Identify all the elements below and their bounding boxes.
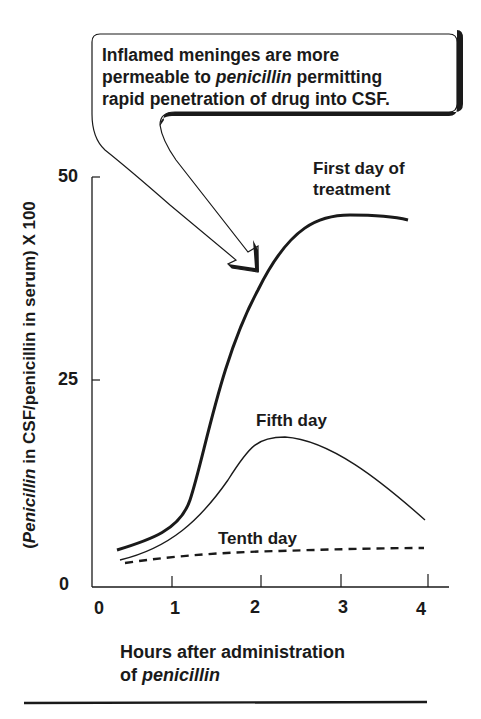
label-first-day-line-1: First day of [313, 158, 405, 179]
callout-line-2: permeable to penicillin permitting [102, 66, 442, 88]
callout-line-2-italic: penicillin [216, 67, 292, 87]
x-tick-label-4: 4 [416, 599, 426, 620]
callout-annotation: Inflamed meninges are more permeable to … [102, 44, 442, 110]
y-tick-label-25: 25 [58, 369, 78, 390]
callout-line-1: Inflamed meninges are more [102, 44, 442, 66]
label-first-day-line-2: treatment [313, 179, 405, 200]
callout-line-3: rapid penetration of drug into CSF. [102, 88, 442, 110]
x-tick-label-0: 0 [94, 598, 104, 619]
bottom-rule [24, 702, 427, 703]
x-tick-label-3: 3 [338, 597, 348, 618]
series-first-day [117, 215, 408, 550]
x-label-line-1: Hours after administration [120, 641, 345, 664]
y-label-open: ( [20, 543, 39, 549]
x-axis-label: Hours after administration of penicillin [120, 641, 345, 687]
y-axis-label: (Penicillin in CSF/penicillin in serum) … [10, 150, 50, 600]
series-tenth-day [125, 548, 424, 563]
x-label-line-2-italic: penicillin [142, 665, 220, 685]
x-tick-label-1: 1 [170, 598, 180, 619]
x-tick-label-2: 2 [250, 597, 260, 618]
label-first-day: First day of treatment [313, 158, 405, 200]
callout-line-2-pre: permeable to [102, 67, 216, 87]
y-label-italic: Penicillin [20, 469, 39, 544]
y-label-rest: in CSF/penicillin in serum) X 100 [20, 201, 39, 468]
y-tick-label-50: 50 [58, 166, 78, 187]
y-tick-label-0: 0 [59, 574, 69, 595]
callout-line-2-post: permitting [292, 67, 382, 87]
label-tenth-day: Tenth day [218, 528, 297, 549]
x-label-line-2-pre: of [120, 665, 142, 685]
label-fifth-day: Fifth day [256, 410, 327, 431]
x-label-line-2: of penicillin [120, 664, 345, 687]
